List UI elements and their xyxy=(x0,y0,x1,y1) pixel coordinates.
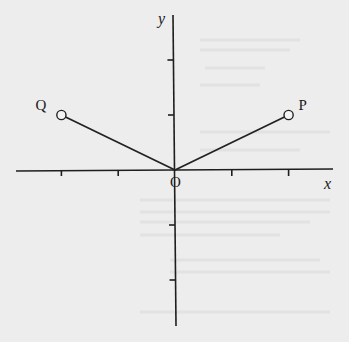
point-q-label: Q xyxy=(35,97,46,113)
point-p-label: P xyxy=(299,97,307,113)
y-axis-label: y xyxy=(156,10,166,28)
paper-bleed-through xyxy=(140,40,330,312)
point-p-marker xyxy=(284,110,293,119)
segment-OP xyxy=(175,115,289,170)
segment-OQ xyxy=(61,115,175,170)
x-axis-label: x xyxy=(323,175,331,192)
points: QP xyxy=(35,97,307,120)
diagram-canvas: QP x y O xyxy=(0,0,349,342)
origin-label: O xyxy=(170,174,181,190)
coordinate-plane: QP x y O xyxy=(0,0,349,342)
point-q-marker xyxy=(57,110,66,119)
